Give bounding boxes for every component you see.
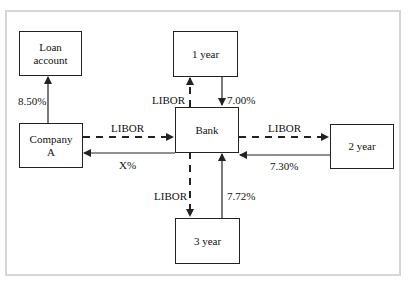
node-company-a: Company A	[19, 123, 83, 168]
node-loan-account-line2: account	[33, 54, 67, 67]
node-year2-label: 2 year	[348, 140, 375, 153]
label-year2-to-bank: 7.30%	[270, 160, 298, 172]
node-year1: 1 year	[173, 31, 238, 77]
node-year3: 3 year	[175, 218, 240, 264]
label-company-to-bank: LIBOR	[111, 122, 144, 134]
node-year1-label: 1 year	[192, 48, 219, 61]
node-company-a-line2: A	[30, 146, 73, 159]
node-year3-label: 3 year	[194, 235, 221, 248]
node-bank-label: Bank	[195, 124, 218, 137]
label-bank-to-company: X%	[119, 159, 136, 171]
label-year1-to-bank: 7.00%	[227, 94, 255, 106]
node-loan-account: Loan account	[19, 31, 82, 76]
node-year2: 2 year	[330, 124, 394, 169]
node-company-a-line1: Company	[30, 133, 73, 146]
node-bank: Bank	[175, 107, 239, 153]
label-bank-to-year3: LIBOR	[154, 190, 187, 202]
label-bank-to-year2: LIBOR	[268, 122, 301, 134]
label-year3-to-bank: 7.72%	[227, 190, 255, 202]
node-loan-account-line1: Loan	[33, 41, 67, 54]
label-bank-to-year1: LIBOR	[152, 94, 185, 106]
label-company-to-loan: 8.50%	[18, 95, 46, 107]
